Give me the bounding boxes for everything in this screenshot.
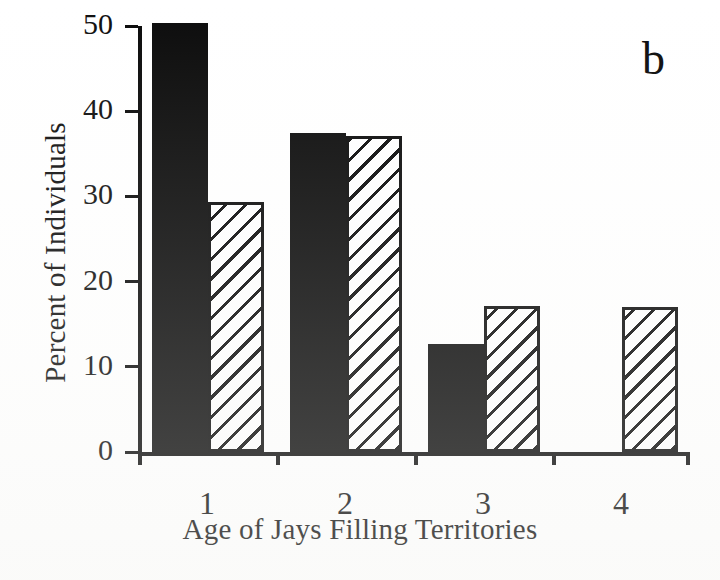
- y-tick-40: [125, 110, 138, 113]
- y-tick-label-40: 40: [23, 94, 113, 124]
- bar-1-hatched: [208, 202, 264, 452]
- bar-3-hatched: [484, 306, 540, 452]
- bar-4-hatched: [622, 307, 678, 452]
- x-tick-label-4: 4: [581, 486, 661, 520]
- y-tick-10: [125, 365, 138, 368]
- x-tick-2: [414, 452, 418, 465]
- y-tick-label-10: 10: [23, 350, 113, 380]
- x-tick-4: [686, 452, 690, 465]
- bars-layer: [138, 26, 690, 452]
- y-tick-0: [125, 451, 138, 454]
- bar-2-hatched: [346, 136, 402, 452]
- x-tick-0: [138, 452, 142, 465]
- y-tick-label-30: 30: [23, 179, 113, 209]
- x-tick-label-1: 1: [167, 486, 247, 520]
- y-tick-20: [125, 280, 138, 283]
- bar-2-solid-black: [290, 133, 346, 452]
- x-tick-label-2: 2: [305, 486, 385, 520]
- y-tick-50: [125, 25, 138, 28]
- bar-1-solid-black: [152, 23, 208, 452]
- plot-area: 010203040501234: [138, 26, 690, 452]
- bar-3-solid-black: [428, 344, 484, 452]
- figure-panel-b: b Percent of Individuals Age of Jays Fil…: [0, 0, 720, 580]
- y-tick-30: [125, 195, 138, 198]
- y-tick-label-20: 20: [23, 265, 113, 295]
- x-tick-label-3: 3: [443, 486, 523, 520]
- y-tick-label-0: 0: [23, 435, 113, 465]
- x-tick-1: [276, 452, 280, 465]
- y-tick-label-50: 50: [23, 9, 113, 39]
- x-tick-3: [552, 452, 556, 465]
